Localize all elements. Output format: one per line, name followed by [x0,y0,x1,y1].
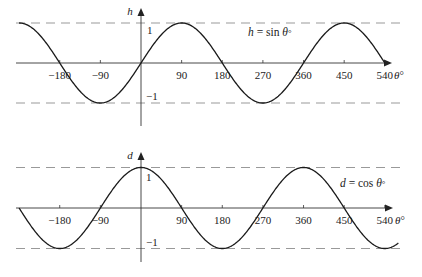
x-tick-label: −90 [92,69,110,81]
x-tick-label: 360 [295,214,312,226]
x-tick-label: 180 [214,214,231,226]
x-tick-label: 450 [336,214,353,226]
cosine-chart: −180−9090180270360450540θ°d1−1d = cos θ° [16,149,405,262]
equation-label: d = cos θ° [340,177,386,189]
x-tick-label: 540 [377,69,394,81]
trig-graphs-figure: −180−9090180270360450540θ°h1−1h = sin θ°… [0,0,422,277]
x-tick-label: −180 [48,214,71,226]
equation-label: h = sin θ° [248,26,292,38]
y-tick-label-1: 1 [147,24,153,36]
sine-chart: −180−9090180270360450540θ°h1−1h = sin θ° [16,5,405,126]
x-axis-arrow-icon [385,205,393,212]
x-tick-label: 90 [176,69,188,81]
y-axis-label: h [127,5,133,17]
x-tick-label: 540 [377,214,394,226]
y-tick-label-neg1: −1 [146,90,158,102]
y-tick-label-1: 1 [146,171,152,183]
x-tick-label: 180 [214,69,231,81]
y-tick-label-neg1: −1 [146,236,158,248]
x-axis-label: θ° [395,214,405,226]
x-tick-label: 450 [336,69,353,81]
x-tick-label: −90 [92,214,110,226]
y-axis-label: d [127,149,133,161]
y-axis-arrow-icon [138,152,145,160]
x-axis-label: θ° [394,69,404,81]
y-axis-arrow-icon [138,8,145,16]
x-tick-label: 270 [255,69,272,81]
